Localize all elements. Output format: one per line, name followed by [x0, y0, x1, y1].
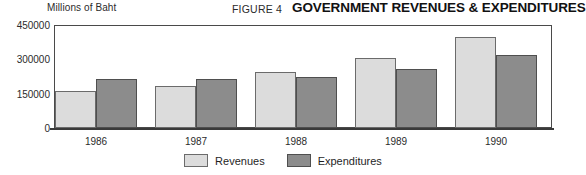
x-axis-tick-label: 1986	[85, 136, 107, 147]
bar-revenues-1986	[55, 91, 96, 128]
bar-series-container	[54, 25, 552, 128]
x-axis-tick-label: 1988	[285, 136, 307, 147]
bar-revenues-1987	[155, 86, 196, 128]
x-axis-tick-label: 1990	[485, 136, 507, 147]
y-axis-tick-label: 300000	[17, 54, 50, 65]
bar-revenues-1989	[355, 58, 396, 128]
legend-label-revenues: Revenues	[215, 155, 265, 167]
x-axis-tick-label: 1987	[185, 136, 207, 147]
bar-expenditures-1986	[96, 79, 137, 128]
bar-revenues-1988	[255, 72, 296, 128]
legend-swatch-revenues	[184, 154, 208, 167]
y-axis-tick-label: 450000	[17, 20, 50, 31]
y-axis-unit-label: Millions of Baht	[47, 2, 116, 13]
bar-expenditures-1989	[396, 69, 437, 128]
figure-number: FIGURE 4	[232, 3, 282, 15]
legend-item-revenues: Revenues	[184, 154, 265, 167]
bar-expenditures-1988	[296, 77, 337, 128]
chart-title: GOVERNMENT REVENUES & EXPENDITURES	[292, 0, 586, 15]
y-axis-labels: 0150000300000450000	[0, 0, 50, 175]
x-axis-tick-label: 1989	[385, 136, 407, 147]
bar-expenditures-1987	[196, 79, 237, 128]
bar-revenues-1990	[455, 37, 496, 128]
legend-swatch-expenditures	[287, 154, 311, 167]
bar-expenditures-1990	[496, 55, 537, 128]
y-axis-tick-label: 150000	[17, 88, 50, 99]
legend-item-expenditures: Expenditures	[287, 154, 382, 167]
chart-legend: Revenues Expenditures	[0, 154, 566, 167]
x-axis-line	[50, 128, 554, 130]
legend-label-expenditures: Expenditures	[318, 155, 382, 167]
